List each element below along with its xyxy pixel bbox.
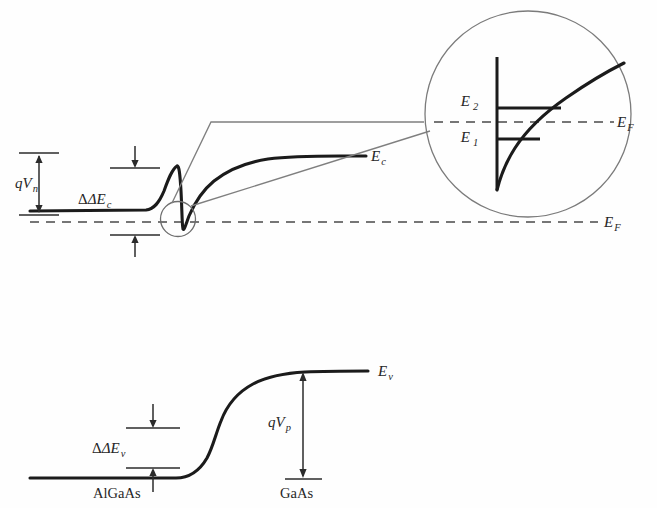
- callout-leader-upper: [172, 122, 424, 203]
- inset-level-e2-sublabel: 2: [473, 101, 479, 112]
- band-diagram-svg: Ec EF qVn: [0, 0, 657, 508]
- valence-band-curve: [30, 371, 368, 478]
- delta-ev-arrowhead-top: [149, 420, 156, 428]
- inset-level-e2-label: E: [460, 93, 470, 109]
- qvn-measurement: qVn: [15, 153, 59, 215]
- inset-level-e1-sublabel: 1: [473, 137, 478, 148]
- qvn-arrowhead-up: [35, 155, 42, 163]
- valence-band-group: Ev ΔΔEv qVp AlGaAs GaAs: [30, 363, 393, 501]
- delta-ev-arrowhead-bottom: [149, 468, 156, 476]
- delta-ec-arrowhead-top: [131, 160, 138, 168]
- inset-group: E 2 E 1 EF: [425, 11, 634, 217]
- delta-ec-arrowhead-bottom: [131, 235, 138, 243]
- notch-callout-circle: [161, 202, 196, 237]
- material-label-left: AlGaAs: [93, 485, 141, 501]
- fermi-level-label-upper: EF: [603, 214, 621, 233]
- callout-leader-lower: [191, 131, 430, 206]
- qvp-label: qVp: [268, 414, 291, 433]
- qvp-arrowhead-down: [299, 469, 306, 478]
- figure-root: Ec EF qVn: [0, 0, 657, 508]
- delta-ec-measurement: ΔΔEc: [78, 146, 160, 257]
- qvp-measurement: qVp: [268, 372, 322, 479]
- qvn-label: qVn: [15, 175, 38, 194]
- inset-circle: [425, 11, 631, 217]
- inset-well-curve: [497, 63, 624, 190]
- material-label-right: GaAs: [280, 485, 313, 501]
- valence-band-label: Ev: [377, 363, 393, 382]
- delta-ec-label: ΔΔEc: [78, 191, 112, 210]
- conduction-band-label: Ec: [370, 148, 386, 167]
- conduction-band-group: Ec EF qVn: [15, 122, 621, 257]
- delta-ev-label: ΔΔEv: [92, 440, 126, 459]
- inset-level-e1-label: E: [460, 129, 470, 145]
